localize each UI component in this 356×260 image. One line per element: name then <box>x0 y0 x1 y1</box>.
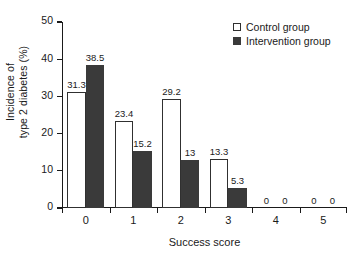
y-axis-tick: 20 <box>57 133 62 134</box>
chart-legend: Control group Intervention group <box>233 20 331 48</box>
bar-intervention <box>181 160 200 208</box>
y-axis-tick-label: 50 <box>41 14 53 26</box>
x-axis-tick-label: 1 <box>113 214 153 226</box>
plot-area: 01020304050 31.338.523.415.229.21313.35.… <box>62 22 347 208</box>
legend-item-intervention: Intervention group <box>233 34 331 48</box>
y-axis-tick-label: 10 <box>41 163 53 175</box>
bar-value-label: 13.3 <box>197 146 241 157</box>
legend-swatch-intervention-icon <box>233 37 241 45</box>
x-axis-tick <box>346 208 347 213</box>
x-axis-tick <box>110 208 111 213</box>
y-axis-tick: 30 <box>57 96 62 97</box>
x-axis-tick <box>205 208 206 213</box>
legend-item-control: Control group <box>233 20 331 34</box>
bar-intervention <box>86 65 105 208</box>
x-axis-tick-label: 4 <box>256 214 296 226</box>
bar-value-label: 38.5 <box>73 52 117 63</box>
x-axis-tick-label: 2 <box>161 214 201 226</box>
bar-value-label: 15.2 <box>121 138 165 149</box>
x-axis-tick-label: 5 <box>303 214 343 226</box>
x-axis-tick-label: 3 <box>208 214 248 226</box>
y-axis-title: Incidence of type 2 diabetes (%) <box>4 12 44 172</box>
x-axis-tick-label: 0 <box>66 214 106 226</box>
y-axis-tick-label: 30 <box>41 89 53 101</box>
bar-value-label: 23.4 <box>102 108 146 119</box>
y-axis-line <box>62 22 63 208</box>
bar-control <box>67 92 86 208</box>
y-axis-title-line1: Incidence of <box>4 63 16 121</box>
x-axis-tick <box>252 208 253 213</box>
x-axis-tick <box>157 208 158 213</box>
legend-label-control: Control group <box>246 21 310 33</box>
bar-value-label: 0 <box>311 195 355 206</box>
y-axis-tick-label: 20 <box>41 126 53 138</box>
y-axis-tick: 10 <box>57 170 62 171</box>
bar-control <box>115 121 134 208</box>
legend-label-intervention: Intervention group <box>246 35 331 47</box>
y-axis-tick: 40 <box>57 59 62 60</box>
x-axis-tick <box>300 208 301 213</box>
bar-value-label: 29.2 <box>150 86 194 97</box>
y-axis-tick-label: 0 <box>47 200 53 212</box>
legend-swatch-control-icon <box>233 23 241 31</box>
y-axis-tick-label: 40 <box>41 52 53 64</box>
x-axis-tick <box>62 208 63 213</box>
x-axis-title: Success score <box>62 236 347 248</box>
y-axis-title-line2: type 2 diabetes (%) <box>17 12 30 172</box>
bar-intervention <box>133 151 152 208</box>
bar-value-label: 5.3 <box>216 175 260 186</box>
chart-figure: Incidence of type 2 diabetes (%) 0102030… <box>0 0 356 260</box>
y-axis-tick: 50 <box>57 21 62 22</box>
